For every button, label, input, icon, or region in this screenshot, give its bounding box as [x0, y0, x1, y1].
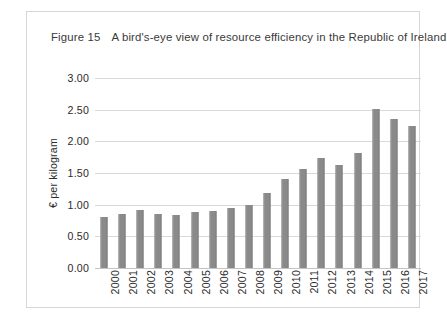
- bar: [354, 153, 361, 268]
- bar-slot: [113, 78, 131, 268]
- y-tick-label: 3.00: [68, 72, 89, 84]
- bar-slot: [167, 78, 185, 268]
- x-tick-label: 2010: [290, 270, 302, 294]
- y-tick-label: 2.00: [68, 135, 89, 147]
- bar: [209, 211, 216, 268]
- x-tick-label: 2014: [363, 270, 375, 294]
- figure-title: Figure 15A bird's-eye view of resource e…: [51, 31, 446, 43]
- bar: [390, 119, 397, 268]
- gridline: [95, 268, 421, 269]
- bar: [372, 109, 379, 268]
- y-tick-label: 0.00: [68, 262, 89, 274]
- x-tick-label: 2017: [417, 270, 429, 294]
- bar-slot: [276, 78, 294, 268]
- x-tick-label: 2005: [200, 270, 212, 294]
- bar: [336, 165, 343, 268]
- bar: [173, 215, 180, 268]
- bar-slot: [349, 78, 367, 268]
- bar-slot: [204, 78, 222, 268]
- bar-slot: [222, 78, 240, 268]
- x-tick-label: 2016: [399, 270, 411, 294]
- plot-area: [95, 78, 421, 268]
- y-tick-label: 1.00: [68, 199, 89, 211]
- figure-title-text: A bird's-eye view of resource efficiency…: [111, 31, 446, 43]
- bar-slot: [367, 78, 385, 268]
- x-tick-label: 2003: [163, 270, 175, 294]
- bar-slot: [403, 78, 421, 268]
- x-tick-label: 2002: [145, 270, 157, 294]
- bar: [101, 217, 108, 268]
- bar: [282, 179, 289, 268]
- x-tick-label: 2001: [127, 270, 139, 294]
- x-tick-label: 2012: [326, 270, 338, 294]
- bar-slot: [330, 78, 348, 268]
- y-axis-tick-labels: 0.000.501.001.502.002.503.00: [27, 78, 89, 268]
- x-tick-label: 2011: [308, 270, 320, 294]
- x-tick-label: 2008: [254, 270, 266, 294]
- x-tick-label: 2004: [182, 270, 194, 294]
- bar: [408, 126, 415, 269]
- bar: [264, 193, 271, 268]
- bar: [245, 205, 252, 268]
- x-tick-label: 2013: [345, 270, 357, 294]
- x-tick-label: 2000: [109, 270, 121, 294]
- bar-slot: [258, 78, 276, 268]
- x-tick-label: 2007: [236, 270, 248, 294]
- x-tick-label: 2006: [218, 270, 230, 294]
- x-tick-label: 2009: [272, 270, 284, 294]
- y-tick-label: 2.50: [68, 104, 89, 116]
- bar-slot: [294, 78, 312, 268]
- bar-slot: [240, 78, 258, 268]
- x-axis-tick-labels: 2000200120022003200420052006200720082009…: [95, 270, 421, 330]
- bar: [318, 158, 325, 268]
- bar: [227, 208, 234, 268]
- bar: [137, 210, 144, 268]
- bar-slot: [95, 78, 113, 268]
- figure-number: Figure 15: [51, 31, 100, 43]
- bar-slot: [131, 78, 149, 268]
- bar: [119, 214, 126, 268]
- bar-slot: [149, 78, 167, 268]
- y-tick-label: 1.50: [68, 167, 89, 179]
- bar-slot: [312, 78, 330, 268]
- figure-frame: Figure 15A bird's-eye view of resource e…: [26, 11, 420, 308]
- y-tick-label: 0.50: [68, 230, 89, 242]
- x-tick-label: 2015: [381, 270, 393, 294]
- bar: [300, 169, 307, 268]
- bar-slot: [186, 78, 204, 268]
- bar: [155, 214, 162, 268]
- bar: [191, 212, 198, 268]
- bar-slot: [385, 78, 403, 268]
